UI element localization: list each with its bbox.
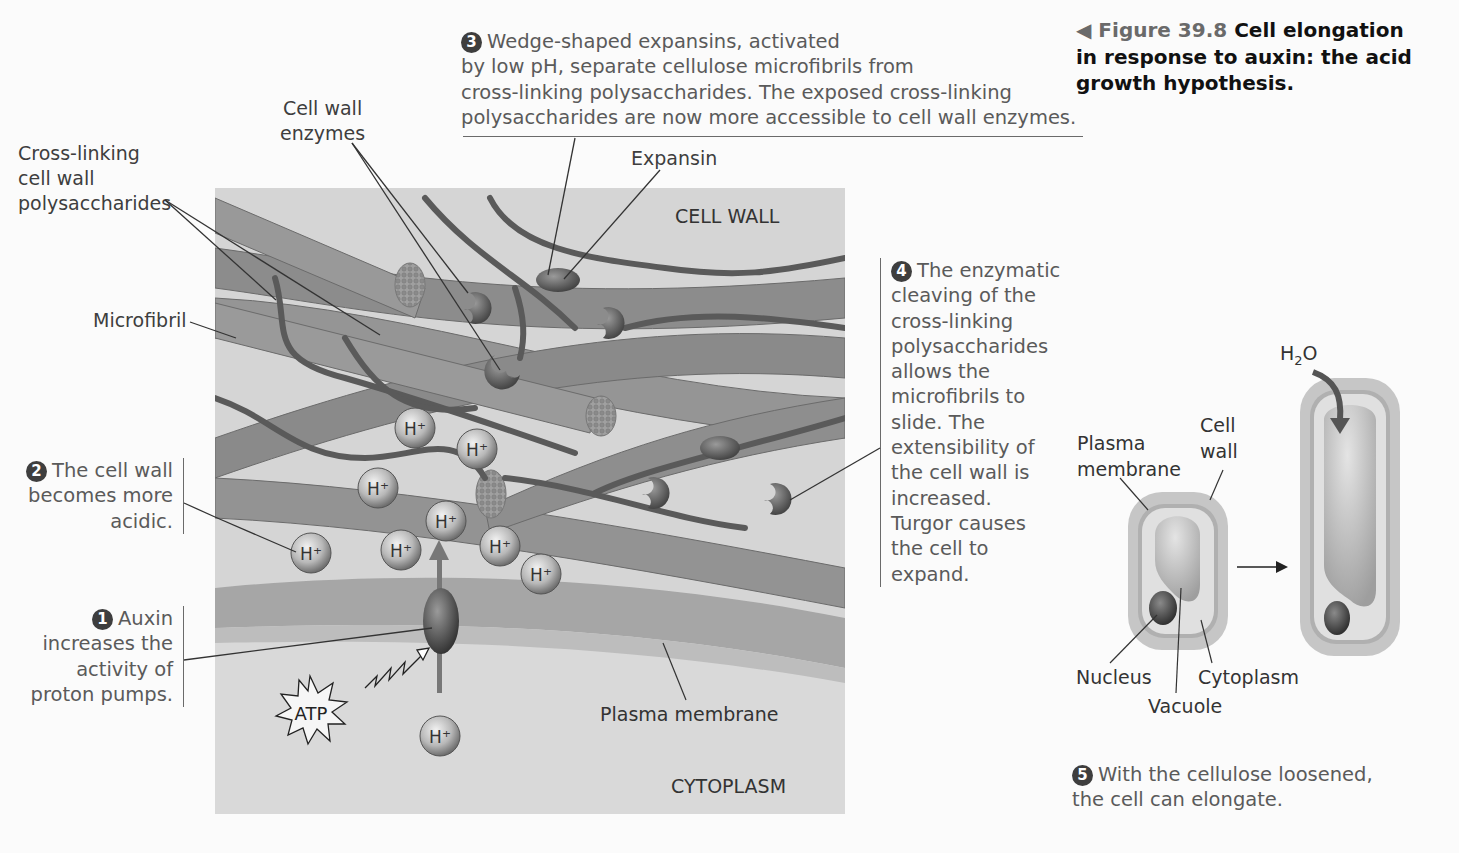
small-cell [1128, 492, 1228, 650]
nucleus-label: Nucleus [1076, 666, 1152, 688]
plasma-membrane-label: Plasmamembrane [1077, 432, 1181, 480]
vacuole-label: Vacuole [1148, 695, 1222, 717]
nucleus [1324, 601, 1350, 635]
cell-wall-label: Cellwall [1200, 414, 1238, 462]
cytoplasm-label: Cytoplasm [1198, 666, 1299, 688]
vacuole [1324, 405, 1376, 607]
elongated-cell [1300, 378, 1400, 656]
water-label: H2O [1280, 342, 1318, 368]
cell-elongation-diagram: H2O Plasmamembrane Cellwall Nucleus Cyto… [1060, 330, 1459, 730]
nucleus [1149, 591, 1177, 625]
